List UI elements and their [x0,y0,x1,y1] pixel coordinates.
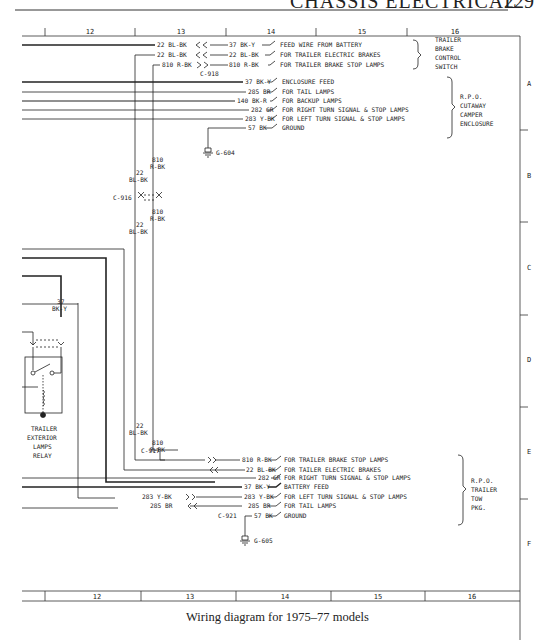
grid-col-12: 12 [86,28,94,36]
camper-wire-6: 57 BK [248,124,267,131]
ground-g604-label: G-604 [216,149,235,156]
tb-right-wire-1: 37 BK-Y [229,41,255,48]
tb-left-wire-2: 22 BL-BK [157,51,187,58]
figure-caption: Wiring diagram for 1975–77 models [186,610,369,625]
grid-row-c: C [527,264,531,272]
tb-desc-3: FOR TRAILER BRAKE STOP LAMPS [280,61,385,68]
grid-row-e: E [527,448,531,456]
vlabel-810-mid-color: R-BK [150,215,165,222]
camper-desc-5: FOR LEFT TURN SIGNAL & STOP LAMPS [282,115,405,122]
tow-label-2: TRAILER [471,486,497,493]
tb-label-4: SWITCH [435,63,458,70]
tow-desc-6: FOR TAIL LAMPS [284,502,336,509]
tow-left-wire-6: 285 BR [150,502,173,509]
grid-col-16: 16 [451,28,459,36]
grid-row-d: D [527,356,531,364]
camper-wire-4: 282 GR [251,106,274,113]
connector-c916-icon [138,192,162,200]
grid-bottom-col-14: 14 [281,593,289,601]
relay-label-1: TRAILER [31,425,57,432]
camper-label-2: CUTAWAY [460,102,486,109]
ground-g605-label: G-605 [254,537,273,544]
grid-bottom-col-15: 15 [374,593,382,601]
tow-label-4: PKG. [471,504,486,511]
vlabel-810-top-color: R-BK [150,163,165,170]
camper-wire-1: 37 BK-Y [245,78,271,85]
tb-left-wire-3: 810 R-BK [162,61,192,68]
vlabel-22-top-num: 22 [136,169,144,176]
vlabel-810-mid-num: 810 [152,208,163,215]
relay-label-3: LAMPS [33,443,52,450]
camper-wire-3: 140 BK-R [237,97,267,104]
tow-right-wire-7: 57 BK [254,512,273,519]
relay-label-2: EXTERIOR [27,434,57,441]
connector-c917: C-917 [141,447,160,454]
camper-wire-2: 285 BR [248,88,271,95]
vlabel-22-mid-color: BL-BK [129,228,148,235]
grid-row-f: F [527,540,531,548]
camper-label-3: CAMPER [460,111,483,118]
tow-label-1: R.P.O. [471,477,493,484]
camper-label-4: ENCLOSURE [460,120,494,127]
relay-wire-color: BK-Y [52,305,67,312]
tow-right-wire-6: 285 BR [248,502,271,509]
tow-desc-4: BATTERY FEED [284,483,329,490]
grid-bottom-col-16: 16 [468,593,476,601]
vlabel-22-top-color: BL-BK [129,176,148,183]
tb-right-wire-3: 810 R-BK [229,61,259,68]
camper-desc-2: FOR TAIL LAMPS [282,88,334,95]
trailer-brake-wiring [22,40,421,330]
camper-desc-6: GROUND [282,124,305,131]
tb-label-1: TRAILER [435,36,461,43]
grid-row-b: B [527,172,531,180]
grid-col-15: 15 [358,28,366,36]
tb-desc-2: FOR TRAILER ELECTRIC BRAKES [280,51,381,58]
camper-label-1: R.P.O. [460,93,482,100]
vlabel-810-low-num: 810 [152,439,163,446]
grid-bottom-col-12: 12 [93,593,101,601]
camper-desc-4: FOR RIGHT TURN SIGNAL & STOP LAMPS [282,106,409,113]
tow-routing-wires [22,249,215,508]
grid-row-a: A [527,80,532,88]
relay-label-4: RELAY [33,452,52,459]
tow-right-wire-5: 283 Y-BK [244,493,274,500]
tow-desc-5: FOR LEFT TURN SIGNAL & STOP LAMPS [284,493,407,500]
tb-label-3: CONTROL [435,54,461,61]
connector-c921: C-921 [218,512,237,519]
tow-right-wire-4: 37 BK-Y [244,483,270,490]
grid-col-14: 14 [267,28,275,36]
connector-c916: C-916 [113,194,132,201]
tb-left-wire-1: 22 BL-BK [157,41,187,48]
tow-desc-7: GROUND [284,512,307,519]
grid-bottom-col-13: 13 [186,593,194,601]
tow-label-3: TOW [471,495,482,502]
tow-left-wire-5: 283 Y-BK [142,493,172,500]
tb-desc-1: FEED WIRE FROM BATTERY [280,41,362,48]
tow-desc-1: FOR TRAILER BRAKE STOP LAMPS [284,456,389,463]
tb-label-2: BRAKE [435,45,454,52]
tb-right-wire-2: 22 BL-BK [229,51,259,58]
vlabel-22-low-num: 22 [136,422,144,429]
tow-desc-2: FOR TAILER ELECTRIC BRAKES [284,466,381,473]
grid-col-13: 13 [177,28,185,36]
wiring-diagram: 12 13 14 15 16 A B C D E F 12 13 14 15 1… [0,0,548,640]
vlabel-810-top-num: 810 [152,156,163,163]
camper-desc-1: ENCLOSURE FEED [282,78,334,85]
ground-g605-icon [240,533,250,545]
ground-g604-icon [203,145,213,157]
camper-desc-3: FOR BACKUP LAMPS [282,97,342,104]
vlabel-22-low-color: BL-BK [129,429,148,436]
tow-desc-3: FOR RIGHT TURN SIGNAL & STOP LAMPS [284,474,411,481]
camper-wire-5: 283 Y-BK [245,115,275,122]
tow-right-wire-1: 810 R-BK [242,456,272,463]
connector-c918: C-918 [200,70,219,77]
tow-right-wire-2: 22 BL-BK [246,466,276,473]
tow-right-wire-3: 282 GR [258,474,281,481]
vlabel-22-mid-num: 22 [136,221,144,228]
